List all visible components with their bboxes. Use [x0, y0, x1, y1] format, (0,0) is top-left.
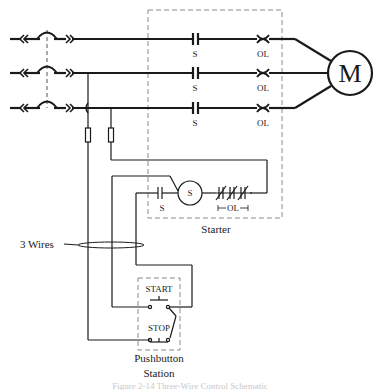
contact-label-3: S [192, 118, 197, 128]
power-line-2 [10, 67, 328, 80]
overload-label-3: OL [257, 118, 269, 128]
starter-enclosure [148, 10, 282, 218]
pushbutton-station-label-1: Pushbutton [134, 352, 184, 364]
cable-label: 3 Wires [20, 238, 54, 250]
aux-contact-label: S [159, 203, 164, 213]
motor: M [328, 51, 372, 95]
wiring-diagram: M S OL S OL S OL S [0, 0, 381, 390]
cable-bundle: 3 Wires [20, 238, 144, 250]
contact-label-2: S [192, 83, 197, 93]
stop-button-label: STOP [148, 323, 170, 333]
start-button-label: START [145, 284, 173, 294]
stop-pushbutton[interactable] [148, 338, 169, 342]
overload-contacts-icon [216, 186, 252, 200]
control-fuse-icon [109, 128, 114, 142]
control-fuse-icon [86, 128, 91, 142]
pushbutton-station: START STOP [112, 278, 180, 350]
figure-caption: Figure 2-14 Three-Wire Control Schematic [112, 381, 267, 390]
start-pushbutton[interactable] [148, 296, 169, 309]
coil-circuit: S OL S [112, 176, 267, 307]
overload-heater-icon [257, 35, 269, 43]
overload-contacts-label: OL [227, 203, 239, 213]
overload-heater-icon [257, 69, 269, 77]
overload-heater-icon [257, 104, 269, 112]
control-wire-from-line-3 [86, 103, 267, 193]
starter-label: Starter [201, 223, 231, 235]
control-wire-from-line-2 [86, 73, 151, 340]
overload-label-2: OL [257, 83, 269, 93]
power-line-3 [10, 86, 331, 114]
coil-label: S [187, 188, 192, 198]
overload-label-1: OL [257, 49, 269, 59]
power-line-1 [10, 33, 331, 62]
pushbutton-station-label-2: Station [143, 367, 175, 379]
motor-label: M [338, 59, 361, 88]
contact-label-1: S [192, 49, 197, 59]
